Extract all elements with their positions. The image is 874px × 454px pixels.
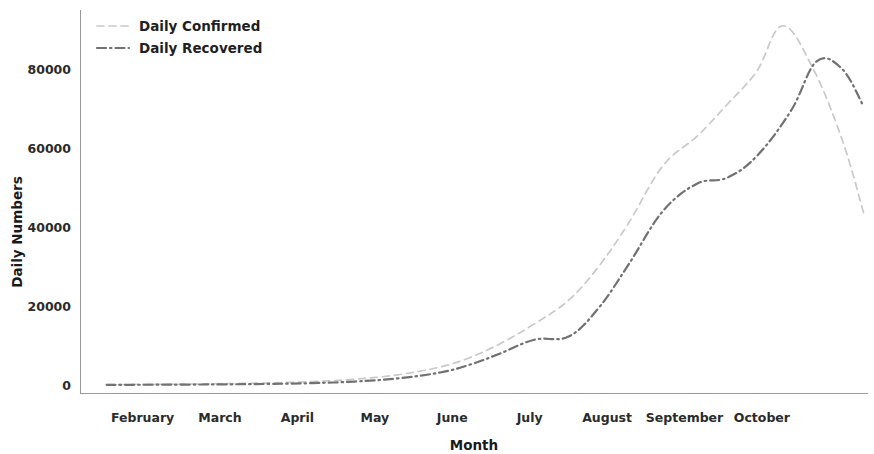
x-tick-label: April [281, 410, 314, 425]
x-tick-label: June [436, 410, 468, 425]
x-tick-label: February [111, 410, 174, 425]
x-axis-title: Month [450, 437, 498, 453]
series-line-daily-recovered [107, 58, 864, 385]
series-line-daily-confirmed [107, 26, 864, 385]
y-tick-label: 20000 [28, 299, 72, 314]
legend-label-daily-confirmed: Daily Confirmed [139, 18, 260, 34]
line-chart-plot: 020000400006000080000 FebruaryMarchApril… [0, 0, 874, 454]
x-tick-label: July [516, 410, 543, 425]
legend-label-daily-recovered: Daily Recovered [139, 40, 262, 56]
axes [81, 10, 869, 394]
y-tick-label: 60000 [28, 141, 72, 156]
x-tick-label: September [646, 410, 724, 425]
y-tick-label: 80000 [28, 62, 72, 77]
chart-legend: Daily ConfirmedDaily Recovered [97, 18, 262, 56]
x-tick-label: May [361, 410, 390, 425]
x-tick-label: March [198, 410, 241, 425]
y-tick-label: 0 [62, 378, 71, 393]
x-tick-label: October [734, 410, 791, 425]
x-tick-label: August [582, 410, 632, 425]
y-axis-title: Daily Numbers [9, 176, 25, 288]
data-series-group [107, 26, 864, 385]
chart-container: 020000400006000080000 FebruaryMarchApril… [0, 0, 874, 454]
y-axis-tick-labels: 020000400006000080000 [28, 62, 72, 393]
y-tick-label: 40000 [28, 220, 72, 235]
x-axis-tick-labels: FebruaryMarchAprilMayJuneJulyAugustSepte… [111, 410, 791, 425]
